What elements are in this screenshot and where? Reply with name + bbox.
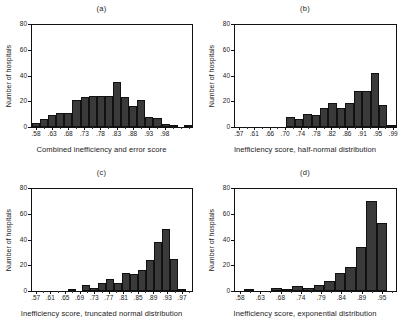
x-axis-tick-label: .70 bbox=[281, 131, 290, 138]
x-axis-tick-label: .83 bbox=[112, 131, 121, 138]
panel-d: (d) Number of hospitals 020406080 .58.63… bbox=[203, 164, 407, 328]
y-axis-tick bbox=[231, 50, 235, 51]
x-axis-minor-tick bbox=[293, 127, 294, 129]
histogram-bar bbox=[56, 113, 64, 127]
panel-b-bars bbox=[235, 24, 396, 127]
x-axis-minor-tick bbox=[372, 291, 373, 293]
panel-b-title: (b) bbox=[203, 4, 407, 13]
panel-a-title: (a) bbox=[0, 4, 203, 13]
y-axis-tick bbox=[231, 240, 235, 241]
y-axis-tick-label: 40 bbox=[223, 236, 230, 243]
x-axis-tick-label: .65 bbox=[60, 295, 69, 302]
x-axis-minor-tick bbox=[44, 127, 45, 129]
x-axis-tick-label: .73 bbox=[80, 131, 89, 138]
y-axis-tick-label: 60 bbox=[223, 211, 230, 218]
x-axis-minor-tick bbox=[351, 291, 352, 293]
panel-a-frame-right bbox=[192, 24, 193, 127]
x-axis-tick-label: .95 bbox=[377, 295, 386, 302]
x-axis-minor-tick bbox=[145, 291, 146, 293]
x-axis-minor-tick bbox=[385, 127, 386, 129]
panel-a-yaxis-title: Number of hospitals bbox=[5, 30, 12, 122]
histogram-bar bbox=[345, 103, 353, 127]
histogram-bar bbox=[324, 281, 335, 291]
histogram-bar bbox=[362, 91, 370, 127]
x-axis-minor-tick bbox=[189, 127, 190, 129]
x-axis-tick-label: .57 bbox=[234, 131, 243, 138]
panel-c-frame-right bbox=[192, 188, 193, 291]
x-axis-minor-tick bbox=[60, 127, 61, 129]
histogram-bar bbox=[72, 100, 80, 127]
panel-c-bars bbox=[32, 188, 192, 291]
y-axis-tick bbox=[231, 24, 235, 25]
x-axis-tick-label: .84 bbox=[337, 295, 346, 302]
histogram-bar bbox=[138, 270, 146, 291]
y-axis-tick-label: 20 bbox=[223, 262, 230, 269]
x-axis-tick-label: .74 bbox=[296, 295, 305, 302]
panel-d-bars bbox=[235, 188, 396, 291]
x-axis-minor-tick bbox=[157, 127, 158, 129]
x-axis-tick-label: .82 bbox=[327, 131, 336, 138]
y-axis-tick-label: 0 bbox=[226, 124, 230, 131]
histogram-bar bbox=[345, 267, 356, 291]
x-axis-minor-tick bbox=[116, 291, 117, 293]
y-axis-tick-label: 0 bbox=[23, 288, 27, 295]
x-axis-tick-label: .77 bbox=[104, 295, 113, 302]
x-axis-tick-label: .61 bbox=[250, 131, 259, 138]
panel-c-xaxis-title: Inefficiency score, truncated normal dis… bbox=[0, 309, 203, 318]
histogram-bar bbox=[153, 118, 161, 127]
x-axis-tick-label: .91 bbox=[358, 131, 367, 138]
y-axis-tick-label: 60 bbox=[20, 211, 27, 218]
histogram-figure: (a) Number of hospitals 020406080 .58.63… bbox=[0, 0, 407, 328]
y-axis-tick-label: 20 bbox=[20, 98, 27, 105]
x-axis-tick-label: .73 bbox=[90, 295, 99, 302]
x-axis-tick-label: .81 bbox=[119, 295, 128, 302]
histogram-bar bbox=[335, 273, 346, 291]
y-axis-tick-label: 80 bbox=[20, 185, 27, 192]
histogram-bar bbox=[295, 119, 303, 127]
histogram-bar bbox=[81, 97, 89, 127]
y-axis-tick-label: 0 bbox=[226, 288, 230, 295]
histogram-bar bbox=[98, 283, 106, 291]
x-axis-tick-label: .89 bbox=[148, 295, 157, 302]
x-axis-minor-tick bbox=[189, 291, 190, 293]
x-axis-tick-label: .68 bbox=[276, 295, 285, 302]
y-axis-tick bbox=[28, 101, 32, 102]
panel-d-yaxis-title-wrap: Number of hospitals bbox=[209, 188, 219, 292]
y-axis-tick bbox=[231, 265, 235, 266]
y-axis-tick bbox=[231, 101, 235, 102]
x-axis-minor-tick bbox=[370, 127, 371, 129]
panel-c-yaxis-title-wrap: Number of hospitals bbox=[6, 188, 16, 292]
y-axis-tick bbox=[28, 50, 32, 51]
x-axis-minor-tick bbox=[173, 127, 174, 129]
panel-d-plot-area: 020406080 .58.63.68.74.79.84.89.95 bbox=[234, 188, 397, 292]
histogram-bar bbox=[379, 105, 387, 127]
x-axis-minor-tick bbox=[324, 127, 325, 129]
histogram-bar bbox=[64, 113, 72, 127]
y-axis-tick-label: 40 bbox=[20, 72, 27, 79]
y-axis-tick bbox=[28, 291, 32, 292]
histogram-bar bbox=[154, 242, 162, 291]
y-axis-tick-label: 80 bbox=[20, 21, 27, 28]
x-axis-tick-label: .58 bbox=[31, 131, 40, 138]
y-axis-tick-label: 20 bbox=[20, 262, 27, 269]
x-axis-minor-tick bbox=[108, 127, 109, 129]
x-axis-minor-tick bbox=[308, 127, 309, 129]
x-axis-tick-label: .68 bbox=[64, 131, 73, 138]
x-axis-minor-tick bbox=[262, 127, 263, 129]
panel-d-xaxis-title: Inefficiency score, exponential distribu… bbox=[203, 309, 407, 318]
histogram-bar bbox=[97, 96, 105, 127]
x-axis-tick-label: .66 bbox=[265, 131, 274, 138]
x-axis-minor-tick bbox=[131, 291, 132, 293]
y-axis-tick-label: 60 bbox=[20, 47, 27, 54]
x-axis-minor-tick bbox=[291, 291, 292, 293]
x-axis-tick-label: .78 bbox=[96, 131, 105, 138]
y-axis-tick bbox=[28, 240, 32, 241]
y-axis-tick-label: 40 bbox=[223, 72, 230, 79]
x-axis-minor-tick bbox=[355, 127, 356, 129]
x-axis-minor-tick bbox=[331, 291, 332, 293]
y-axis-tick bbox=[28, 188, 32, 189]
histogram-bar bbox=[328, 103, 336, 127]
panel-b-xaxis-title: Inefficiency score, half-normal distribu… bbox=[203, 145, 407, 154]
panel-a-yaxis-title-wrap: Number of hospitals bbox=[6, 24, 16, 128]
x-axis-tick-label: .88 bbox=[128, 131, 137, 138]
